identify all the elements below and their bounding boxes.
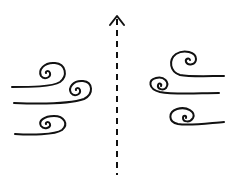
wind-diagram (0, 0, 236, 187)
left-wind-gusts (12, 63, 91, 135)
wind-swirl-icon (171, 52, 224, 77)
wind-swirl-icon (150, 78, 219, 94)
upward-dashed-arrow-icon (110, 16, 124, 175)
wind-swirl-icon (170, 108, 224, 124)
wind-swirl-icon (12, 63, 65, 87)
diagram-canvas (0, 0, 236, 187)
right-wind-gusts (150, 52, 224, 125)
wind-swirl-icon (15, 116, 65, 135)
